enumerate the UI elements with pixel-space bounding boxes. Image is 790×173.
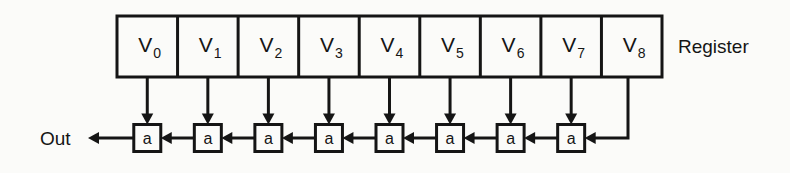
tap-arrow-6-head	[505, 114, 517, 125]
output-arrow-group	[88, 132, 134, 144]
output-arrow-head	[88, 132, 99, 144]
register-label: Register	[678, 36, 749, 57]
tap-arrow-0-head	[141, 114, 153, 125]
chain-arrow-0-head	[161, 132, 172, 144]
chain-arrow-4-head	[403, 132, 414, 144]
register-delay-line-diagram: V0V1V2V3V4V5V6V7V8 aaaaaaaa Register Out	[0, 0, 790, 173]
feedback-path	[594, 77, 628, 138]
tap-arrow-7-head	[565, 114, 577, 125]
accumulator-node-label-7: a	[567, 130, 576, 147]
accumulator-node-label-3: a	[324, 130, 333, 147]
accumulator-node-label-5: a	[446, 130, 455, 147]
accumulator-node-label-4: a	[385, 130, 394, 147]
register-tap-arrows-group	[141, 77, 577, 125]
chain-arrow-3-head	[342, 132, 353, 144]
register-group: V0V1V2V3V4V5V6V7V8	[117, 16, 662, 77]
tap-arrow-5-head	[444, 114, 456, 125]
tap-arrow-4-head	[384, 114, 396, 125]
diagram-canvas: V0V1V2V3V4V5V6V7V8 aaaaaaaa Register Out	[0, 0, 790, 173]
feedback-path-group	[585, 77, 628, 144]
tap-arrow-1-head	[202, 114, 214, 125]
output-label: Out	[40, 128, 71, 149]
accumulator-node-label-2: a	[264, 130, 273, 147]
chain-arrow-6-head	[524, 132, 535, 144]
tap-arrow-3-head	[323, 114, 335, 125]
chain-arrow-1-head	[221, 132, 232, 144]
accumulator-node-label-0: a	[143, 130, 152, 147]
accumulator-node-label-1: a	[203, 130, 212, 147]
accumulator-node-label-6: a	[506, 130, 515, 147]
tap-arrow-2-head	[262, 114, 274, 125]
chain-arrow-5-head	[464, 132, 475, 144]
chain-arrow-2-head	[282, 132, 293, 144]
feedback-arrow-head	[585, 132, 596, 144]
